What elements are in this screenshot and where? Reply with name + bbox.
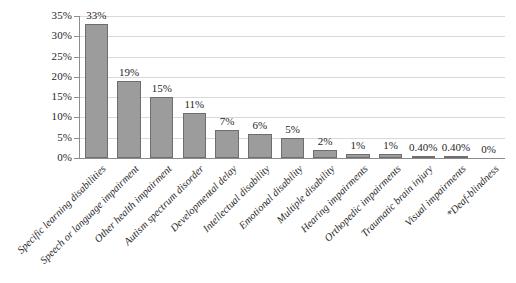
bar-chart: 0%5%10%15%20%25%30%35% 33%19%15%11%7%6%5… [0, 0, 516, 283]
bar-slot: 11% [183, 16, 207, 158]
bar[interactable] [281, 138, 305, 158]
bar-value-label: 1% [351, 140, 366, 151]
bar-value-label: 5% [285, 124, 300, 135]
x-axis-category-label: Developmental delay [168, 163, 239, 234]
bar-value-label: 1% [383, 140, 398, 151]
bar-slot: 1% [379, 16, 403, 158]
bar[interactable] [412, 156, 436, 158]
x-axis-category-label: Orthopedic impairments [322, 163, 403, 244]
bar[interactable] [183, 113, 207, 158]
bar-value-label: 11% [185, 99, 205, 110]
bar-value-label: 0.40% [442, 142, 470, 153]
bar-value-label: 33% [86, 10, 106, 21]
y-axis-labels: 0%5%10%15%20%25%30%35% [0, 0, 72, 283]
y-axis-tick [74, 77, 79, 78]
x-axis-category-label: Traumatic brain injury [359, 163, 435, 239]
y-axis-tick-label: 25% [0, 51, 72, 62]
bar[interactable] [117, 81, 141, 158]
bar-value-label: 0.40% [409, 142, 437, 153]
bar[interactable] [313, 150, 337, 158]
bar-slot: 33% [85, 16, 109, 158]
x-axis-category-label: Intellectual disability [200, 163, 271, 234]
bar-value-label: 6% [252, 120, 267, 131]
x-axis-category-label: Multiple disability [275, 163, 337, 225]
x-axis-category-label: Hearing impairments [298, 163, 370, 235]
bar-slot: 6% [248, 16, 272, 158]
x-axis-category-label: Emotional disability [236, 163, 304, 231]
bar-slot: 0.40% [412, 16, 436, 158]
axis-baseline [80, 158, 505, 159]
y-axis-tick-label: 20% [0, 71, 72, 82]
bar-slot: 0.40% [444, 16, 468, 158]
plot-area: 33%19%15%11%7%6%5%2%1%1%0.40%0.40%0% [80, 16, 505, 158]
x-axis-category-label: Visual impairments [403, 163, 468, 228]
bar-slot: 15% [150, 16, 174, 158]
y-axis-tick-label: 0% [0, 152, 72, 163]
y-axis-tick-label: 15% [0, 91, 72, 102]
y-axis-tick [74, 36, 79, 37]
bar-slot: 19% [117, 16, 141, 158]
bar[interactable] [215, 130, 239, 158]
y-axis-tick-label: 5% [0, 132, 72, 143]
bar-value-label: 7% [220, 116, 235, 127]
bar[interactable] [150, 97, 174, 158]
x-axis-category-label: Autism spectrum disorder [122, 163, 206, 247]
y-axis-tick [74, 16, 79, 17]
y-axis-tick [74, 97, 79, 98]
bar-value-label: 0% [481, 144, 496, 155]
y-axis-tick [74, 158, 79, 159]
bar[interactable] [444, 156, 468, 158]
bar-slot: 2% [313, 16, 337, 158]
y-axis-tick [74, 138, 79, 139]
bar-value-label: 2% [318, 136, 333, 147]
bar-value-label: 15% [152, 83, 172, 94]
y-axis-tick [74, 57, 79, 58]
x-axis-category-label: Other health impairment [92, 163, 174, 245]
bar-value-label: 19% [119, 67, 139, 78]
y-axis-tick [74, 117, 79, 118]
bar[interactable] [248, 134, 272, 158]
y-axis-tick-label: 30% [0, 30, 72, 41]
y-axis-tick-label: 35% [0, 10, 72, 21]
y-axis-tick-label: 10% [0, 111, 72, 122]
bar-slot: 7% [215, 16, 239, 158]
bar[interactable] [346, 154, 370, 158]
bar[interactable] [85, 24, 109, 158]
bar-slot: 0% [477, 16, 501, 158]
bar-slot: 1% [346, 16, 370, 158]
bar[interactable] [379, 154, 403, 158]
bar-slot: 5% [281, 16, 305, 158]
x-axis-category-label: *Deaf-blindness [444, 163, 500, 219]
